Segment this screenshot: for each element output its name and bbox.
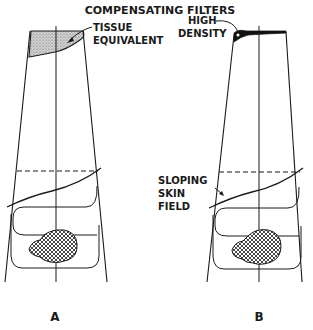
beam-edge-left-a xyxy=(5,31,30,282)
beam-edge-right-a xyxy=(83,31,107,282)
high-density-label-line2: DENSITY xyxy=(178,28,227,39)
panel-label-a: A xyxy=(50,310,60,324)
skin-label-line2: SKIN xyxy=(158,188,185,199)
panel-label-b: B xyxy=(254,310,263,324)
high-density-label-line1: HIGH xyxy=(188,15,217,26)
filter-tip-marker xyxy=(237,34,240,37)
sloping-skin-surface-b xyxy=(209,168,303,208)
tissue-label-line2: EQUIVALENT xyxy=(93,35,164,46)
beam-edge-left-b xyxy=(207,35,234,282)
skin-label-line1: SLOPING xyxy=(158,175,207,186)
sloping-skin-surface-a xyxy=(7,168,101,207)
tumor-region-b xyxy=(232,230,281,265)
beam-edge-right-b xyxy=(286,32,302,282)
isodose-curve-a1 xyxy=(13,186,97,235)
isodose-curve-b1 xyxy=(215,187,299,236)
tissue-label-line1: TISSUE xyxy=(93,22,133,33)
skin-label-line3: FIELD xyxy=(158,201,190,212)
high-density-filter xyxy=(234,30,286,42)
panel-b: B HIGH DENSITY SLOPING SKIN FIELD xyxy=(158,15,303,324)
panel-a: A TISSUE EQUIVALENT xyxy=(5,22,164,324)
compensating-filters-diagram: COMPENSATING FILTERS A TISSUE EQUIVALENT xyxy=(0,0,313,330)
